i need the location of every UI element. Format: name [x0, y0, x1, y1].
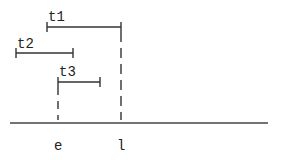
timeline-diagram: t1 t2 t3 e l [0, 0, 284, 160]
interval-label-t3: t3 [59, 65, 76, 79]
interval-label-t1: t1 [48, 10, 65, 24]
marker-label-e: e [54, 139, 62, 153]
diagram-graphics [0, 0, 284, 160]
marker-label-l: l [117, 139, 125, 153]
interval-label-t2: t2 [17, 37, 34, 51]
